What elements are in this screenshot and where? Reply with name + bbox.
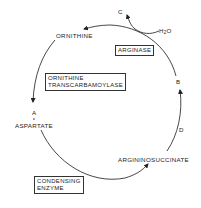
label-water: H2O [159,27,172,36]
label-argininosuccinate: ARGININOSUCCINATE [118,156,189,163]
enzyme-ornithine-transcarbamoylase-box: ORNITHINE TRANSCARBAMOYLASE [45,73,126,91]
enzyme-condensing-line1: CONDENSING [37,178,81,185]
label-d: D [179,126,184,133]
label-a: A [32,109,36,116]
enzyme-arginase-label: ARGINASE [118,47,151,54]
enzyme-condensing-line2: ENZYME [37,185,81,192]
label-b: B [176,78,180,85]
label-ornithine: ORNITHINE [56,32,93,39]
enzyme-otc-line2: TRANSCARBAMOYLASE [48,82,123,89]
enzyme-condensing-box: CONDENSING ENZYME [34,176,84,194]
enzyme-arginase-box: ARGINASE [115,45,154,56]
label-c: C [118,8,123,15]
enzyme-otc-line1: ORNITHINE [48,75,123,82]
branch-h2o-to-c [127,15,159,33]
arc-ornithine-to-a [33,40,55,102]
arc-aspartate-to-argininosuccinate [41,130,148,179]
arc-argininosuccinate-to-b [167,90,181,151]
plus-dot [33,118,35,120]
label-aspartate: ASPARTATE [15,122,53,129]
